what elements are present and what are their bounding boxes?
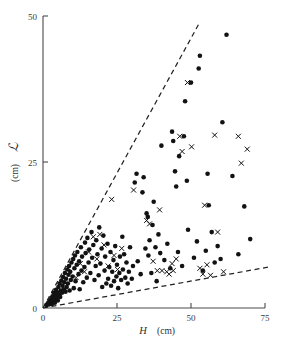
data-point-dot <box>198 53 203 58</box>
data-point-cross <box>174 256 179 261</box>
data-point-cross <box>221 269 226 274</box>
data-point-dot <box>113 244 118 249</box>
data-point-dot <box>135 259 140 264</box>
data-point-cross <box>170 261 175 266</box>
data-point-dot <box>85 275 90 280</box>
data-point-dot <box>70 274 75 279</box>
data-point-dot <box>212 260 217 265</box>
data-point-dot <box>89 230 94 235</box>
data-point-cross <box>212 133 217 138</box>
data-point-dot <box>224 32 229 37</box>
data-point-dot <box>195 239 200 244</box>
data-point-cross <box>202 203 207 208</box>
data-point-dot <box>119 278 124 283</box>
data-point-dot <box>90 255 95 260</box>
data-point-dot <box>83 240 88 245</box>
data-point-dot <box>124 260 129 265</box>
scatter-plot-figure: 0255075 02550 H (cm) ℒ (cm) <box>0 0 283 346</box>
y-ticklabel-group: 02550 <box>28 12 38 314</box>
y-axis-title: ℒ (cm) <box>6 142 21 182</box>
data-point-dot <box>79 245 84 250</box>
data-point-dot <box>134 171 139 176</box>
data-point-dot <box>180 264 185 269</box>
data-point-dot <box>100 285 105 290</box>
data-point-cross <box>109 197 114 202</box>
data-point-dot <box>140 190 145 195</box>
data-point-dot <box>230 174 235 179</box>
data-point-cross <box>94 256 99 261</box>
data-point-dot <box>77 287 82 292</box>
plot-canvas: 0255075 02550 H (cm) ℒ (cm) <box>0 0 283 346</box>
data-point-cross <box>112 253 117 258</box>
data-point-dot <box>64 277 69 282</box>
x-ticklabel-75: 75 <box>261 313 271 323</box>
y-tick-group <box>43 16 48 162</box>
data-point-cross <box>215 230 220 235</box>
x-ticklabel-0: 0 <box>41 313 46 323</box>
data-point-cross <box>180 149 185 154</box>
data-point-dot <box>97 225 102 230</box>
data-point-dot <box>93 264 98 269</box>
data-point-dot <box>88 271 93 276</box>
data-point-cross <box>151 259 156 264</box>
data-point-dot <box>110 269 115 274</box>
data-point-dot <box>146 253 151 258</box>
x-ticklabel-50: 50 <box>187 313 197 323</box>
data-point-cross <box>131 188 136 193</box>
data-point-dot <box>85 236 90 241</box>
data-point-dot <box>153 245 158 250</box>
data-point-dot <box>158 251 163 256</box>
data-point-dot <box>185 178 190 183</box>
data-point-dot <box>121 267 126 272</box>
data-point-dot <box>176 250 181 255</box>
data-point-cross <box>197 266 202 271</box>
x-ticklabel-group: 0255075 <box>41 313 270 323</box>
data-point-dot <box>141 175 146 180</box>
filled-circle-series <box>44 32 252 307</box>
data-point-dot <box>105 241 110 246</box>
data-point-dot <box>143 246 148 251</box>
y-axis-title-unit: (cm) <box>10 164 21 182</box>
data-point-dot <box>122 252 127 257</box>
y-axis-title-symbol: ℒ <box>6 142 21 152</box>
data-point-cross <box>204 262 209 267</box>
data-point-dot <box>130 277 135 282</box>
data-point-dot <box>218 257 223 262</box>
data-point-dot <box>132 180 137 185</box>
data-point-cross <box>171 268 176 273</box>
data-point-dot <box>174 184 179 189</box>
data-point-dot <box>123 275 128 280</box>
data-point-dot <box>114 274 119 279</box>
data-point-dot <box>159 143 164 148</box>
data-point-cross <box>115 267 120 272</box>
x-ticklabel-25: 25 <box>113 313 123 323</box>
data-point-dot <box>182 134 187 139</box>
data-point-cross <box>119 246 124 251</box>
data-point-cross <box>91 234 96 239</box>
data-point-dot <box>196 66 201 71</box>
data-point-dot <box>128 245 133 250</box>
data-point-dot <box>242 204 247 209</box>
data-point-dot <box>173 169 178 174</box>
data-point-dot <box>138 272 143 277</box>
data-point-dot <box>220 120 225 125</box>
data-point-dot <box>183 99 188 104</box>
data-point-cross <box>157 207 162 212</box>
data-point-dot <box>66 281 71 286</box>
data-point-dot <box>204 248 209 253</box>
data-point-dot <box>154 279 159 284</box>
data-point-dot <box>162 258 167 263</box>
data-point-dot <box>91 243 96 248</box>
data-point-dot <box>95 252 100 257</box>
data-point-dot <box>63 289 68 294</box>
x-axis-title-unit: (cm) <box>157 326 175 337</box>
data-point-dot <box>86 260 91 265</box>
data-point-cross <box>208 273 213 278</box>
y-ticklabel-25: 25 <box>28 158 38 168</box>
data-point-cross <box>155 268 160 273</box>
data-point-dot <box>165 241 170 246</box>
data-point-dot <box>103 254 108 259</box>
data-point-dot <box>206 203 211 208</box>
x-tick-group <box>117 303 265 308</box>
data-point-dot <box>248 237 253 242</box>
